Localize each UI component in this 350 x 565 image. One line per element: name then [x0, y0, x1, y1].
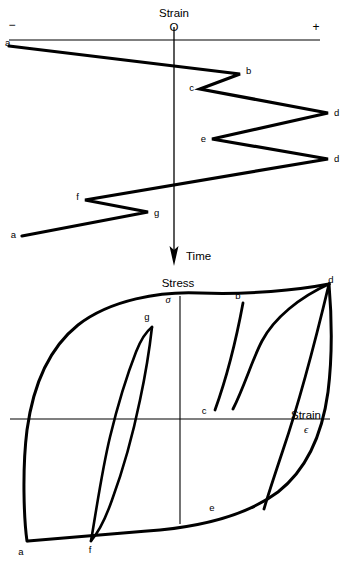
top-point-label-d1: d: [334, 107, 339, 118]
bottom-point-label-a: a: [18, 546, 24, 557]
strain-time-waveform: [9, 46, 328, 236]
bottom-point-label-b: b: [235, 290, 240, 301]
bottom-point-label-f: f: [89, 544, 92, 555]
bottom-x-axis-title-strain: Strain: [291, 409, 321, 421]
top-point-label-b: b: [246, 65, 251, 76]
bottom-y-axis-title-stress: Stress: [162, 277, 195, 289]
top-time-axis-label: Time: [186, 250, 211, 262]
top-panel-group: Strain O − + Time a b c d e d f g a: [5, 7, 339, 266]
top-point-label-c: c: [189, 82, 194, 93]
bottom-point-label-g: g: [144, 311, 149, 322]
inner-loop-loading-f-to-g: [91, 327, 152, 541]
top-point-label-a2: a: [11, 229, 17, 240]
top-point-label-g: g: [154, 207, 159, 218]
top-point-label-d2: d: [334, 153, 339, 164]
top-point-label-e: e: [201, 133, 206, 144]
hysteresis-upper-branch: [24, 284, 329, 541]
top-axis-title-strain: Strain: [159, 7, 189, 19]
bottom-point-label-e: e: [209, 502, 214, 513]
bottom-point-label-c: c: [202, 405, 207, 416]
top-point-label-f: f: [76, 191, 79, 202]
stress-sigma-symbol: σ: [165, 294, 171, 305]
strain-epsilon-symbol: ϵ: [304, 424, 309, 435]
negative-sign-label: −: [8, 18, 15, 32]
stress-strain-figure-svg: Strain O − + Time a b c d e d f g a: [0, 0, 350, 565]
bottom-panel-group: Stress σ Strain ϵ a b c d e f g: [10, 274, 334, 557]
inner-loop-unloading-g-to-f: [91, 327, 152, 541]
top-origin-label: O: [170, 21, 179, 33]
positive-sign-label: +: [312, 20, 319, 34]
top-point-label-a1: a: [5, 37, 11, 48]
figure-container: Strain O − + Time a b c d e d f g a: [0, 0, 350, 565]
bottom-point-label-d: d: [328, 274, 333, 285]
